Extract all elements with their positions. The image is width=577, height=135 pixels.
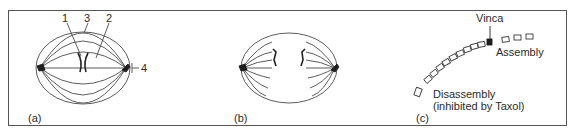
chromosome-icon bbox=[78, 53, 88, 72]
spindle-fiber bbox=[242, 68, 268, 88]
panel-b bbox=[239, 33, 339, 103]
figure-svg: 1 3 2 4 (a) bbox=[0, 0, 577, 135]
callout-line-3 bbox=[84, 23, 88, 33]
disassembly-note: (inhibited by Taxol) bbox=[433, 100, 525, 112]
callout-number-3: 3 bbox=[84, 12, 90, 24]
spindle-fiber bbox=[242, 52, 272, 68]
callout-number-1: 1 bbox=[62, 12, 68, 24]
chromatid-left-icon bbox=[273, 49, 276, 66]
free-subunits bbox=[502, 34, 533, 42]
callout-number-4: 4 bbox=[141, 62, 147, 74]
panel-c bbox=[414, 26, 533, 97]
assembly-label: Assembly bbox=[496, 46, 544, 58]
callout-line-2 bbox=[96, 23, 109, 58]
callout-line-1 bbox=[67, 23, 81, 56]
spindle-fiber bbox=[40, 68, 126, 103]
panel-label-a: (a) bbox=[28, 112, 41, 124]
mitosis-figure: 1 3 2 4 (a) bbox=[0, 0, 577, 135]
vinca-label: Vinca bbox=[476, 12, 504, 24]
panel-a bbox=[36, 23, 139, 104]
spindle-fiber bbox=[40, 33, 126, 68]
panel-label-b: (b) bbox=[234, 112, 247, 124]
callout-number-2: 2 bbox=[106, 12, 112, 24]
vinca-bound-subunit bbox=[487, 39, 492, 45]
pole-left-icon bbox=[37, 64, 45, 71]
panel-label-c: (c) bbox=[416, 112, 429, 124]
chromatid-right-icon bbox=[301, 49, 305, 66]
spindle-fiber bbox=[40, 41, 126, 68]
spindle-fiber bbox=[40, 68, 126, 95]
disassembly-label: Disassembly bbox=[433, 88, 496, 100]
pole-left-icon bbox=[239, 64, 247, 71]
